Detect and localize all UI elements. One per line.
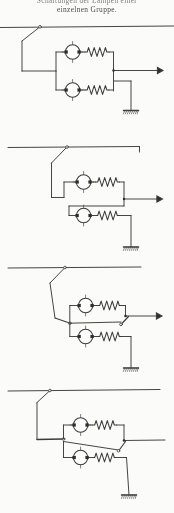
switch-blade-3b[interactable] [55,318,70,323]
supply-rail-3 [8,267,141,268]
output-terminal-1 [157,68,163,74]
junction-node-3 [124,315,127,318]
resistor-b-1 [85,86,109,95]
junction-node-1 [112,69,114,71]
ground-symbol-4 [121,495,136,498]
resistor-b-2 [96,211,120,220]
output-terminal-2 [157,196,163,202]
switch-pivot-4[interactable] [49,389,52,392]
ground-lead-v-4 [127,458,130,496]
cross-link-3 [70,322,121,323]
switch-pivot-2[interactable] [66,146,69,149]
circuit-figure [0,0,174,513]
lamp-a-4-term-r [85,423,88,426]
lamp-a-1-term-r [77,50,80,53]
lamp-a-4-term-l [72,423,75,426]
lamp-b-4-term-r [85,456,88,459]
schaltung-1 [0,25,174,113]
supply-rail-1 [0,26,174,28]
lamp-b-2-term-r [88,214,91,217]
resistor-b-4 [93,453,117,462]
switch-blade-2[interactable] [52,147,68,163]
output-lead-4 [124,440,165,441]
schaltung-4 [8,389,165,498]
lamp-a-1-term-l [64,50,67,53]
lamp-a-2-term-r [88,180,91,183]
switch-pivot-4c[interactable] [117,450,120,453]
switch-blade-4[interactable] [37,391,50,403]
lamp-b-4-term-l [72,456,75,459]
resistor-a-2 [96,178,120,187]
ground-symbol-2 [123,247,138,250]
lamp-b-1-term-l [64,88,67,91]
ground-symbol-3 [123,368,138,371]
lamp-b-2-term-l [75,214,78,217]
left-bus-4 [37,439,62,440]
resistor-b-3 [98,332,122,341]
lamp-a-3-term-l [77,304,80,307]
junction-node-2 [123,198,125,200]
schaltung-3 [8,266,162,371]
resistor-a-1 [85,48,109,57]
supply-rail-2 [8,147,140,148]
resistor-a-4 [93,421,117,430]
switch-pivot-3[interactable] [64,266,67,269]
lamp-b-3-term-l [77,335,80,338]
output-terminal-3 [156,313,162,319]
lamp-a-3-term-r [90,304,93,307]
scanned-page: Schaltungen der Lampen einer einzelnen G… [0,0,174,513]
cross-link-4 [64,442,119,451]
supply-rail-4 [8,390,160,392]
switch-pivot-1[interactable] [39,25,42,28]
switch-pivot-3c[interactable] [120,323,123,326]
lamp-a-2-term-l [75,180,78,183]
ground-symbol-1 [123,111,138,114]
schaltung-2 [8,146,163,251]
switch-blade-3[interactable] [50,268,65,284]
resistor-a-3 [98,301,122,310]
lamp-b-1-term-r [77,88,80,91]
lamp-b-3-term-r [90,335,93,338]
switch-blade-1[interactable] [22,27,40,41]
left-drop-3 [50,283,55,318]
